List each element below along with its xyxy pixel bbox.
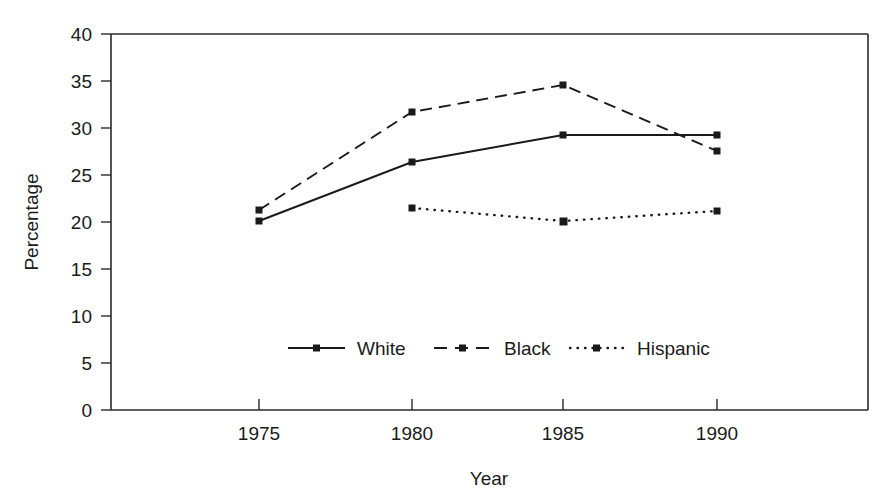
legend-marker-black (459, 345, 466, 352)
data-point-black-1980 (409, 109, 416, 116)
x-tick-label: 1975 (238, 423, 280, 444)
data-point-white-1990 (714, 132, 721, 139)
data-point-white-1975 (256, 218, 263, 225)
y-axis-ticks (101, 34, 111, 410)
data-point-hispanic-1985 (560, 218, 568, 226)
data-point-white-1980 (409, 159, 416, 166)
legend-label-hispanic: Hispanic (637, 338, 710, 359)
y-tick-label: 20 (71, 212, 92, 233)
data-point-hispanic-1990 (714, 208, 721, 215)
x-tick-label: 1990 (696, 423, 738, 444)
x-axis-title: Year (470, 468, 509, 489)
legend-label-black: Black (504, 338, 551, 359)
chart-legend: White Black Hispanic (288, 338, 710, 359)
legend-item-black[interactable]: Black (434, 338, 551, 359)
x-tick-labels: 1975 1980 1985 1990 (238, 423, 738, 444)
chart-figure: 40 35 30 25 20 15 10 5 0 1975 1980 1985 … (0, 0, 893, 501)
x-tick-label: 1980 (391, 423, 433, 444)
y-tick-labels: 40 35 30 25 20 15 10 5 0 (71, 24, 92, 421)
legend-item-white[interactable]: White (288, 338, 406, 359)
data-point-black-1985 (560, 82, 567, 89)
y-tick-label: 25 (71, 165, 92, 186)
y-axis-title: Percentage (21, 173, 42, 270)
data-point-hispanic-1980 (409, 205, 416, 212)
y-tick-label: 10 (71, 306, 92, 327)
y-tick-label: 15 (71, 259, 92, 280)
line-chart: 40 35 30 25 20 15 10 5 0 1975 1980 1985 … (0, 0, 893, 501)
x-axis-ticks (259, 399, 717, 410)
series-hispanic (409, 205, 721, 226)
data-point-black-1990 (714, 148, 721, 155)
legend-label-white: White (357, 338, 406, 359)
y-tick-label: 30 (71, 118, 92, 139)
y-tick-label: 5 (81, 353, 92, 374)
y-tick-label: 35 (71, 71, 92, 92)
y-tick-label: 40 (71, 24, 92, 45)
x-tick-label: 1985 (542, 423, 584, 444)
legend-marker-white (313, 345, 320, 352)
plot-frame (111, 34, 868, 410)
data-point-white-1985 (560, 132, 567, 139)
y-tick-label: 0 (81, 400, 92, 421)
data-point-black-1975 (256, 207, 263, 214)
series-white (256, 132, 721, 225)
legend-item-hispanic[interactable]: Hispanic (570, 338, 710, 359)
series-white-line (259, 135, 717, 221)
legend-marker-hispanic (593, 345, 600, 352)
